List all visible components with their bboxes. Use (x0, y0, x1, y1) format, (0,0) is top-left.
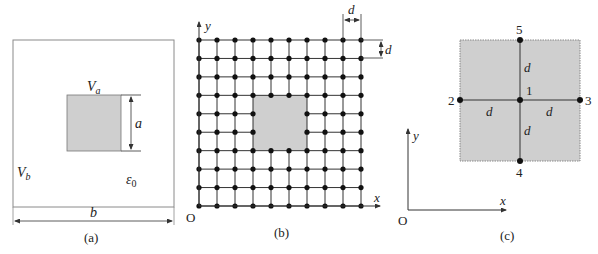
node-3 (577, 97, 583, 103)
grid-node (250, 56, 255, 61)
grid-node (340, 93, 345, 98)
grid-node (358, 185, 363, 190)
grid-node (322, 130, 327, 135)
caption-c: (c) (500, 228, 514, 243)
boundary-node (304, 111, 309, 116)
y-axis-label: y (203, 18, 211, 33)
boundary-node (304, 130, 309, 135)
grid-node (286, 74, 291, 79)
grid-node (268, 167, 273, 172)
grid-node (268, 37, 273, 42)
grid-node (268, 185, 273, 190)
node-5 (517, 37, 523, 43)
grid-node (304, 185, 309, 190)
grid-node (214, 56, 219, 61)
grid-node (250, 167, 255, 172)
grid-node (358, 148, 363, 153)
grid-node (232, 93, 237, 98)
node-4 (517, 158, 523, 164)
x-axis-label: x (373, 190, 380, 205)
grid-node (322, 93, 327, 98)
grid-node (232, 185, 237, 190)
grid-node (214, 185, 219, 190)
grid-node (232, 167, 237, 172)
grid-node (340, 74, 345, 79)
boundary-node (286, 148, 291, 153)
arm-label-right: d (546, 104, 553, 119)
grid-node (214, 74, 219, 79)
grid-node (214, 148, 219, 153)
label-Vb: Vb (17, 165, 31, 182)
caption-b: (b) (274, 225, 289, 240)
grid-node (322, 148, 327, 153)
arm-label-left: d (486, 104, 493, 119)
node-5-label: 5 (516, 22, 523, 37)
boundary-node (250, 130, 255, 135)
grid-node (322, 37, 327, 42)
c-x-axis-label: x (499, 193, 506, 208)
grid-node (250, 74, 255, 79)
grid-node (214, 93, 219, 98)
grid-node (340, 56, 345, 61)
grid-node (286, 37, 291, 42)
node-4-label: 4 (516, 165, 523, 180)
panel-a: a Va Vb ε0 b (a) (13, 40, 174, 245)
grid-node (214, 167, 219, 172)
grid-node (232, 130, 237, 135)
grid-node (232, 111, 237, 116)
d-label-horizontal: d (348, 2, 355, 17)
arm-label-top: d (524, 60, 531, 75)
grid-node (358, 167, 363, 172)
boundary-node (250, 111, 255, 116)
c-y-axis-label: y (411, 128, 419, 143)
grid-node (214, 37, 219, 42)
node-1-label: 1 (526, 83, 533, 98)
grid-node (340, 148, 345, 153)
caption-a: (a) (84, 230, 98, 245)
grid-node (358, 56, 363, 61)
label-epsilon0: ε0 (126, 172, 137, 189)
boundary-node (268, 148, 273, 153)
node-1 (517, 97, 523, 103)
grid-node (286, 167, 291, 172)
grid-node (322, 111, 327, 116)
boundary-node (304, 93, 309, 98)
grid-node (358, 130, 363, 135)
label-a: a (135, 116, 142, 131)
grid-node (286, 185, 291, 190)
grid-node (358, 111, 363, 116)
boundary-node (250, 148, 255, 153)
figure-canvas: a Va Vb ε0 b (a) y x O d d (b) (0, 0, 598, 254)
label-b: b (90, 205, 97, 220)
grid-node (358, 93, 363, 98)
grid-node (214, 111, 219, 116)
label-Va: Va (87, 79, 101, 96)
boundary-node (268, 93, 273, 98)
node-2-label: 2 (448, 93, 455, 108)
panel-b: y x O d d (b) (186, 2, 392, 240)
grid-node (322, 74, 327, 79)
grid-node (340, 111, 345, 116)
grid-node (232, 74, 237, 79)
node-2 (457, 97, 463, 103)
grid-node (250, 37, 255, 42)
grid-node (358, 74, 363, 79)
grid-node (214, 130, 219, 135)
grid-node (322, 56, 327, 61)
grid-node (232, 56, 237, 61)
grid-node (304, 74, 309, 79)
boundary-node (250, 93, 255, 98)
grid-node (268, 74, 273, 79)
panel-c: 1 2 3 4 5 d d d d y x O (c) (398, 22, 592, 243)
d-label-vertical: d (385, 42, 392, 57)
arm-label-bottom: d (524, 123, 531, 138)
grid-node (286, 56, 291, 61)
boundary-node (286, 93, 291, 98)
grid-node (322, 167, 327, 172)
node-3-label: 3 (585, 93, 592, 108)
origin-label: O (186, 210, 195, 225)
grid-node (232, 37, 237, 42)
grid-node (340, 167, 345, 172)
grid-node (304, 56, 309, 61)
grid-node (322, 185, 327, 190)
